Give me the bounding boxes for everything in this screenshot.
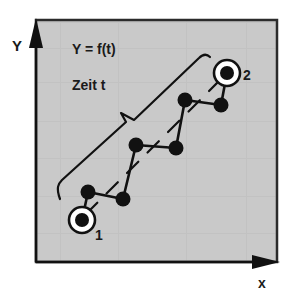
data-point-dot — [116, 192, 131, 207]
data-point-dot — [214, 98, 229, 113]
data-point-dot — [129, 138, 144, 153]
x-axis-label: x — [258, 276, 266, 290]
time-annotation: Zeit t — [72, 78, 105, 92]
endpoint-label-1: 1 — [95, 228, 103, 242]
endpoint-marker-1 — [69, 207, 95, 233]
endpoint-marker-2 — [214, 60, 240, 86]
data-point-dot — [178, 93, 193, 108]
data-point-dot — [81, 185, 96, 200]
endpoint-marker-core-icon — [220, 66, 234, 80]
equation-annotation: Y = f(t) — [72, 42, 116, 56]
diagram-canvas — [0, 0, 300, 300]
data-point-dot — [169, 141, 184, 156]
y-axis-label: Y — [12, 38, 22, 53]
endpoint-marker-core-icon — [75, 213, 89, 227]
figure-root: Y x Y = f(t) Zeit t 1 2 — [0, 0, 300, 300]
endpoint-label-2: 2 — [243, 68, 251, 82]
